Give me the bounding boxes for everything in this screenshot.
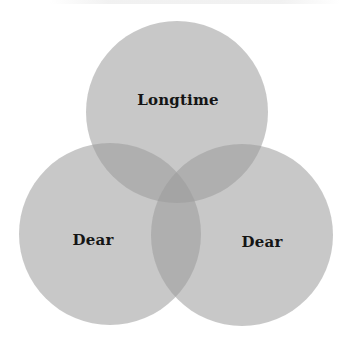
- label-dear-left: Dear: [73, 231, 114, 249]
- label-longtime: Longtime: [137, 91, 219, 109]
- label-dear-right: Dear: [242, 233, 283, 251]
- venn-diagram: [0, 0, 350, 343]
